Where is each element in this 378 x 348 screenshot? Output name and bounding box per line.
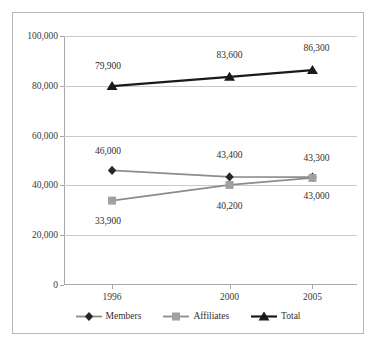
legend-key-diamond-icon [76, 311, 102, 322]
data-label: 43,400 [216, 150, 242, 160]
legend-item-affiliates[interactable]: Affiliates [163, 311, 229, 322]
diamond-marker [108, 166, 116, 175]
square-marker [172, 312, 180, 320]
data-label: 83,600 [216, 50, 242, 60]
legend-label: Affiliates [193, 311, 229, 321]
diamond-marker [225, 172, 233, 181]
x-axis-tick-label: 1996 [103, 292, 122, 302]
chart-frame: 020,00040,00060,00080,000100,000 1996200… [12, 12, 364, 334]
legend-key-triangle-icon [251, 311, 277, 322]
y-axis-tick-label: 20,000 [32, 230, 58, 240]
legend-label: Members [106, 311, 142, 321]
y-axis-tick-label: 0 [53, 280, 58, 290]
chart-legend: MembersAffiliatesTotal [12, 305, 364, 327]
y-axis-tick [60, 285, 64, 286]
data-label: 43,300 [303, 153, 329, 163]
series-line-affiliates [112, 178, 312, 201]
data-label: 46,000 [95, 146, 121, 156]
series-line-members [112, 170, 312, 177]
legend-item-total[interactable]: Total [251, 311, 300, 322]
y-axis-tick-label: 80,000 [32, 81, 58, 91]
square-marker [108, 197, 116, 205]
legend-item-members[interactable]: Members [76, 311, 142, 322]
square-marker [226, 181, 234, 189]
x-axis-tick-label: 2000 [220, 292, 239, 302]
x-axis-tick [230, 285, 231, 289]
diamond-marker [84, 311, 92, 320]
chart-screenshot: 020,00040,00060,00080,000100,000 1996200… [0, 0, 378, 348]
y-axis-tick-label: 60,000 [32, 131, 58, 141]
square-marker [308, 174, 316, 182]
data-label: 33,900 [95, 216, 121, 226]
y-axis-tick-label: 40,000 [32, 180, 58, 190]
x-axis-tick-label: 2005 [303, 292, 322, 302]
x-axis-tick [312, 285, 313, 289]
series-line-total [112, 70, 312, 86]
plot-area: 020,00040,00060,00080,000100,000 1996200… [64, 36, 357, 285]
y-axis-tick-label: 100,000 [27, 31, 58, 41]
legend-label: Total [281, 311, 300, 321]
data-label: 43,000 [303, 191, 329, 201]
x-axis-tick [112, 285, 113, 289]
data-label: 86,300 [303, 43, 329, 53]
data-label: 40,200 [216, 201, 242, 211]
data-label: 79,900 [95, 61, 121, 71]
legend-key-square-icon [163, 311, 189, 322]
